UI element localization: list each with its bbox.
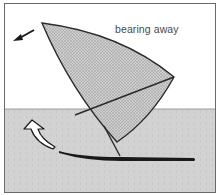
figure-frame: bearing away	[4, 3, 216, 193]
bearing-away-illustration	[5, 4, 216, 193]
direction-arrow-icon	[13, 30, 34, 41]
figure-caption: bearing away	[115, 23, 179, 35]
